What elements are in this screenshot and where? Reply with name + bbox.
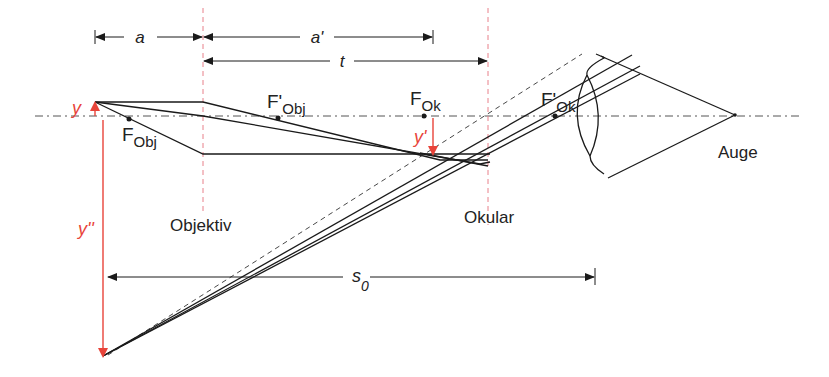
label-auge: Auge	[718, 143, 758, 162]
f-obj-dot	[127, 117, 132, 122]
label-f-obj: FObj	[122, 124, 157, 150]
label-y: y	[70, 98, 82, 118]
label-objektiv: Objektiv	[170, 216, 232, 235]
label-a-prime: a'	[311, 28, 324, 47]
label-y-double-prime: y''	[76, 219, 94, 239]
label-okular: Okular	[464, 208, 514, 227]
dimension-a-prime: a'	[204, 28, 433, 47]
f-ok-dot	[422, 114, 427, 119]
telescope-ray-diagram: a a' t FObj F	[0, 0, 829, 377]
dimension-s0: s0	[108, 266, 595, 294]
label-t: t	[340, 52, 346, 71]
eye-focal-dot	[733, 113, 737, 117]
label-f-obj-prime: F'Obj	[267, 91, 306, 117]
chief-ray-dashed	[108, 54, 582, 355]
label-y-prime: y'	[412, 127, 427, 147]
label-a: a	[135, 28, 144, 47]
dimension-a: a	[95, 28, 202, 47]
f-obj-prime-dot	[276, 116, 281, 121]
label-s0: s0	[352, 266, 369, 294]
dimension-t: t	[204, 52, 487, 71]
label-f-ok: FOk	[410, 88, 441, 114]
label-f-ok-prime: F'Ok	[541, 89, 576, 115]
